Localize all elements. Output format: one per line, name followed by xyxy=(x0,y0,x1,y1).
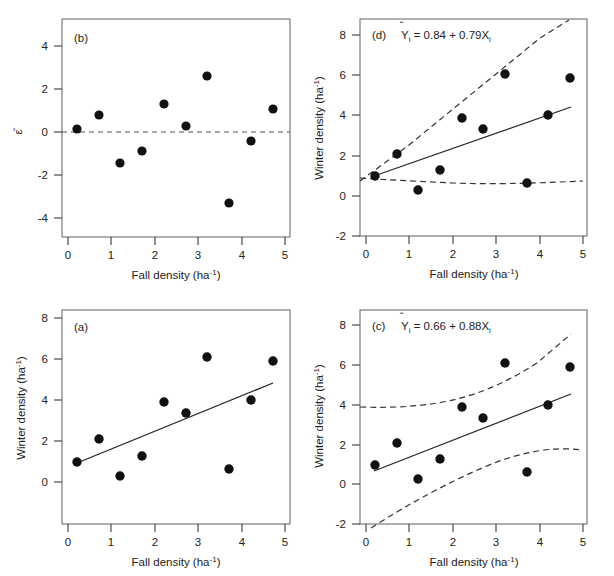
xtick-label-a-5: 5 xyxy=(282,536,288,548)
panel-c-tag: (c) xyxy=(372,320,386,332)
xtick-label-c-3: 3 xyxy=(493,536,499,548)
xtick-label-a-4: 4 xyxy=(239,536,246,548)
ytick-label-a-4: 0 xyxy=(42,476,48,488)
data-point xyxy=(137,451,146,460)
ytick-label-a-0: 8 xyxy=(42,312,48,324)
ytick-label-b-1: 2 xyxy=(42,83,48,95)
data-point xyxy=(457,113,466,122)
panel-b-data-points xyxy=(72,71,277,207)
panel-c-lower-band xyxy=(371,449,583,528)
data-point xyxy=(181,121,190,130)
xtick-label-d-4: 4 xyxy=(537,248,544,260)
panel-a-plot-frame xyxy=(62,310,290,524)
data-point xyxy=(202,352,211,361)
data-point xyxy=(94,434,103,443)
data-point xyxy=(392,149,401,158)
panel-c-x-axis-title: Fall density (ha-1) xyxy=(430,555,519,568)
panel-a-tag: (a) xyxy=(74,321,88,333)
xtick-label-b-5: 5 xyxy=(282,249,288,261)
panel-b-plot-frame xyxy=(62,19,290,237)
xtick-label-c-4: 4 xyxy=(537,536,544,548)
panel-b-x-axis: 0 1 2 3 4 5 xyxy=(65,237,288,261)
xtick-label-d-5: 5 xyxy=(580,248,586,260)
data-point xyxy=(435,454,444,463)
panel-b-residual-plot: 4 2 0 -2 -4 0 1 2 3 4 5 xyxy=(0,0,307,288)
data-point xyxy=(543,400,552,409)
panel-a-scatter-with-fit: 8 6 4 2 0 0 1 2 3 4 5 Fall den xyxy=(0,288,307,576)
panel-a-fitted-line xyxy=(77,383,273,463)
xtick-label-b-1: 1 xyxy=(108,249,114,261)
panel-b-y-axis: 4 2 0 -2 -4 xyxy=(38,40,62,224)
panel-c-x-axis: 0 1 2 3 4 5 xyxy=(363,524,586,548)
ytick-label-a-3: 2 xyxy=(42,435,48,447)
data-point xyxy=(115,471,124,480)
data-point xyxy=(181,408,190,417)
panel-d-data-points xyxy=(370,69,574,194)
panel-c-y-axis-title: Winter density (ha-1) xyxy=(312,364,325,468)
data-point xyxy=(159,99,168,108)
panel-d-tag: (d) xyxy=(372,29,386,41)
data-point xyxy=(500,69,509,78)
ytick-label-d-4: 0 xyxy=(340,190,346,202)
ytick-label-b-3: -2 xyxy=(38,169,48,181)
data-point xyxy=(478,124,487,133)
data-point xyxy=(137,146,146,155)
panel-a-data-points xyxy=(72,352,277,480)
data-point xyxy=(370,460,379,469)
data-point xyxy=(202,71,211,80)
panel-c-svg: 8 6 4 2 0 -2 0 1 2 3 4 5 xyxy=(307,288,614,576)
figure-panel-grid: 4 2 0 -2 -4 0 1 2 3 4 5 xyxy=(0,0,614,576)
data-point xyxy=(457,402,466,411)
xtick-label-c-1: 1 xyxy=(406,536,412,548)
ytick-label-d-0: 8 xyxy=(340,29,346,41)
xtick-label-b-2: 2 xyxy=(152,249,158,261)
data-point xyxy=(478,413,487,422)
panel-a-x-axis: 0 1 2 3 4 5 xyxy=(65,524,288,548)
panel-c-y-axis: 8 6 4 2 0 -2 xyxy=(336,319,360,530)
panel-a-y-axis: 8 6 4 2 0 xyxy=(42,312,62,488)
data-point xyxy=(72,457,81,466)
xtick-label-d-3: 3 xyxy=(493,248,499,260)
panel-c-plot-frame xyxy=(360,310,587,524)
xtick-label-c-5: 5 xyxy=(580,536,586,548)
panel-d-y-axis: 8 6 4 2 0 -2 xyxy=(336,29,360,242)
panel-b-y-axis-title: ε̂ xyxy=(12,127,24,134)
panel-d-fitted-line xyxy=(374,107,571,176)
panel-b-tag: (b) xyxy=(74,32,88,44)
data-point xyxy=(435,165,444,174)
data-point xyxy=(246,395,255,404)
xtick-label-b-0: 0 xyxy=(65,249,71,261)
xtick-label-b-3: 3 xyxy=(195,249,201,261)
xtick-label-c-2: 2 xyxy=(450,536,456,548)
ytick-label-c-0: 8 xyxy=(340,319,346,331)
panel-d-lower-band xyxy=(360,178,583,184)
data-point xyxy=(246,136,255,145)
ytick-label-d-3: 2 xyxy=(340,150,346,162)
panel-a-svg: 8 6 4 2 0 0 1 2 3 4 5 Fall den xyxy=(0,288,307,576)
ytick-label-a-2: 4 xyxy=(42,394,49,406)
data-point xyxy=(268,104,277,113)
ytick-label-b-2: 0 xyxy=(42,126,48,138)
xtick-label-b-4: 4 xyxy=(239,249,246,261)
panel-d-svg: 8 6 4 2 0 -2 0 1 2 3 4 5 xyxy=(307,0,614,288)
data-point xyxy=(268,356,277,365)
ytick-label-d-2: 4 xyxy=(340,109,347,121)
ytick-label-c-1: 6 xyxy=(340,359,346,371)
data-point xyxy=(522,467,531,476)
xtick-label-d-2: 2 xyxy=(450,248,456,260)
ytick-label-a-1: 6 xyxy=(42,353,48,365)
xtick-label-c-0: 0 xyxy=(363,536,369,548)
data-point xyxy=(94,110,103,119)
xtick-label-d-0: 0 xyxy=(363,248,369,260)
ytick-label-c-4: 0 xyxy=(340,478,346,490)
xtick-label-d-1: 1 xyxy=(406,248,412,260)
panel-d-regression-with-bands: 8 6 4 2 0 -2 0 1 2 3 4 5 xyxy=(307,0,614,288)
ytick-label-c-2: 4 xyxy=(340,399,347,411)
panel-b-svg: 4 2 0 -2 -4 0 1 2 3 4 5 xyxy=(0,0,307,288)
panel-c-regression-with-confidence-bands: 8 6 4 2 0 -2 0 1 2 3 4 5 xyxy=(307,288,614,576)
data-point xyxy=(224,464,233,473)
ytick-label-d-5: -2 xyxy=(336,230,346,242)
ytick-label-b-0: 4 xyxy=(42,40,49,52)
panel-a-y-axis-title: Winter density (ha-1) xyxy=(14,356,27,460)
data-point xyxy=(413,474,422,483)
